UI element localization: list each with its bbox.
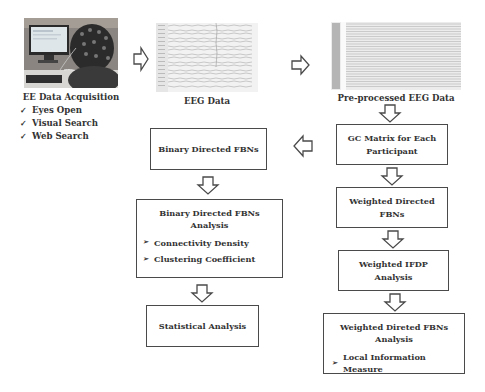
check-icon: ✓ (20, 117, 32, 130)
binary-directed-fbns-box: Binary Directed FBNs (150, 128, 267, 170)
weighted-directed-fbns-label: Weighted Directed FBNs (337, 195, 447, 220)
weighted-ifdp-analysis-label: Weighted IFDP Analysis (339, 258, 448, 283)
condition-eyes-open: ✓Eyes Open (20, 104, 98, 117)
weighted-fbns-analysis-title: Weighted Direted FBNs Analysis (328, 321, 460, 346)
eeg-traces (156, 23, 258, 92)
binary-fbns-analysis-box: Binary Directed FBNs Analysis ➢Connectiv… (136, 199, 283, 278)
condition-web-search: ✓Web Search (20, 130, 98, 143)
weighted-ifdp-analysis-box: Weighted IFDP Analysis (338, 250, 449, 291)
eeg-raw-caption: EEG Data (156, 96, 258, 106)
condition-list: ✓Eyes Open ✓Visual Search ✓Web Search (20, 104, 98, 143)
arrow-down-icon (197, 176, 219, 195)
gc-matrix-line2: Participant (366, 145, 417, 157)
statistical-analysis-box: Statistical Analysis (146, 305, 259, 347)
measure-connectivity-density: ➢Connectivity Density (143, 237, 276, 249)
arrow-bullet-icon: ➢ (143, 237, 149, 248)
binary-directed-fbns-label: Binary Directed FBNs (158, 143, 258, 155)
arrow-down-icon (382, 230, 404, 249)
arrow-bullet-icon: ➢ (143, 254, 149, 265)
arrow-left-icon (293, 135, 313, 157)
arrow-down-icon (381, 167, 403, 186)
check-icon: ✓ (20, 104, 32, 117)
eeg-acquisition-photo (24, 18, 118, 88)
eeg-preprocessed-signal-image (331, 22, 461, 90)
arrow-right-icon (133, 47, 149, 71)
binary-analysis-measures: ➢Connectivity Density ➢Clustering Coeffi… (143, 237, 276, 270)
weighted-analysis-measures: ➢Local Information Measure (332, 351, 460, 380)
eeg-preprocessed-caption: Pre-processed EEG Data (326, 93, 466, 103)
measure-clustering-coefficient: ➢Clustering Coefficient (143, 253, 276, 265)
arrow-bullet-icon: ➢ (332, 358, 338, 369)
arrow-down-icon (191, 284, 213, 303)
gc-matrix-line1: GC Matrix for Each (348, 132, 436, 144)
weighted-directed-fbns-box: Weighted Directed FBNs (336, 187, 448, 228)
eeg-preprocessed-traces (331, 22, 461, 90)
arrow-right-icon (291, 55, 310, 75)
eeg-raw-signal-image (156, 23, 258, 92)
binary-fbns-analysis-title: Binary Directed FBNs Analysis (143, 207, 276, 232)
condition-visual-search: ✓Visual Search (20, 117, 98, 130)
check-icon: ✓ (20, 130, 32, 143)
photo-illustration (24, 18, 118, 88)
gc-matrix-box: GC Matrix for Each Participant (336, 124, 448, 165)
arrow-down-icon (384, 293, 406, 312)
statistical-analysis-label: Statistical Analysis (159, 320, 246, 332)
measure-local-information: ➢Local Information Measure (332, 351, 460, 376)
acquisition-caption: EE Data Acquisition (20, 92, 122, 102)
weighted-fbns-analysis-box: Weighted Direted FBNs Analysis ➢Local In… (323, 313, 465, 374)
arrow-down-icon (379, 104, 401, 123)
